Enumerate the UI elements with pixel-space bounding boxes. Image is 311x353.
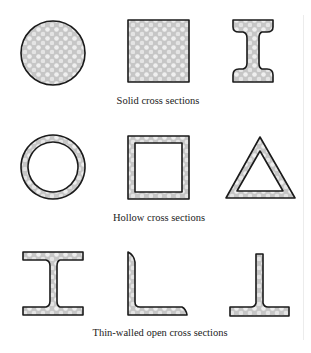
solid-square-shape — [128, 20, 189, 82]
hollow-cross-sections-group: Hollow cross sections — [21, 135, 295, 223]
solid-i-section-shape — [233, 20, 273, 82]
hollow-cross-sections-caption: Hollow cross sections — [113, 212, 205, 223]
solid-cross-sections-caption: Solid cross sections — [117, 95, 200, 106]
thin-walled-inverted-tee-shape — [230, 254, 289, 316]
thin-walled-i-beam-shape — [23, 252, 83, 315]
solid-cross-sections-group: Solid cross sections — [21, 20, 273, 106]
hollow-triangle-shape — [226, 137, 295, 198]
hollow-circle-shape — [21, 135, 85, 199]
thin-walled-open-cross-sections-group: Thin-walled open cross sections — [23, 252, 289, 338]
hollow-square-shape — [128, 136, 189, 199]
thin-walled-angle-shape — [128, 252, 187, 315]
thin-walled-open-cross-sections-caption: Thin-walled open cross sections — [92, 327, 227, 338]
cross-sections-figure: Solid cross sections Hollow cross sectio… — [0, 0, 311, 353]
solid-circle-shape — [21, 21, 85, 85]
